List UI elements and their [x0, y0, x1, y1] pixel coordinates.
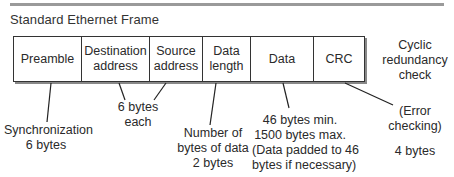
addresses-annotation: 6 byteseach — [112, 100, 164, 130]
crc-size-annotation: 4 bytes — [380, 144, 450, 159]
leader-source — [154, 83, 166, 100]
data-length-annotation: Number ofbytes of data2 bytes — [170, 126, 256, 171]
crc-purpose-annotation: (Errorchecking) — [380, 104, 450, 134]
leader-crc — [345, 83, 393, 105]
leader-data-length — [210, 83, 216, 125]
leader-destination — [119, 83, 125, 100]
leader-preamble — [47, 83, 51, 122]
leader-data — [283, 83, 289, 108]
preamble-annotation: Synchronization6 bytes — [4, 123, 88, 153]
data-annotation: 46 bytes min.1500 bytes max.(Data padded… — [252, 113, 348, 173]
crc-name-annotation: Cyclicredundancycheck — [380, 38, 450, 83]
